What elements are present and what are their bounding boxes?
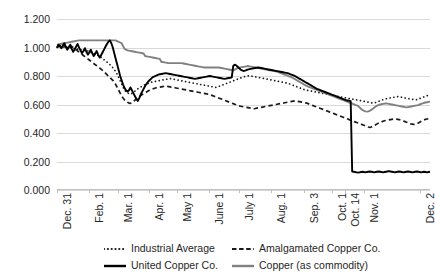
x-axis-tick-label: June 1 <box>213 193 225 225</box>
x-axis-tick-mark <box>209 190 210 193</box>
x-axis-tick-mark <box>57 190 58 193</box>
x-axis-tick-mark <box>304 190 305 193</box>
y-axis-tick-label: 1.000 <box>0 42 50 54</box>
x-axis-tick-label: Dec. 2 <box>424 193 435 223</box>
x-axis-tick-label: Aug. 1 <box>275 193 287 223</box>
x-axis-tick-mark <box>239 190 240 193</box>
y-axis-tick-label: 0.600 <box>0 99 50 111</box>
legend-label: Amalgamated Copper Co. <box>259 243 380 254</box>
x-axis-tick-mark <box>177 190 178 193</box>
y-axis-tick-label: 0.800 <box>0 70 50 82</box>
legend-label: Copper (as commodity) <box>259 260 368 271</box>
x-axis-baseline <box>57 189 430 190</box>
x-axis-tick-label: Oct. 14 <box>349 193 361 227</box>
legend-key-solid-icon <box>232 262 254 270</box>
legend-item[interactable]: United Copper Co. <box>104 260 232 271</box>
x-axis-tick-mark <box>420 190 421 193</box>
legend-item[interactable]: Amalgamated Copper Co. <box>232 243 404 254</box>
x-axis-tick-label: Dec. 31 <box>61 193 73 229</box>
x-axis-tick-mark <box>364 190 365 193</box>
gridline <box>57 190 430 191</box>
legend-key-solid-icon <box>104 262 126 270</box>
x-axis-tick-label: May 1 <box>181 193 193 222</box>
x-axis-tick-label: Nov. 1 <box>368 193 380 223</box>
x-axis-tick-mark <box>89 190 90 193</box>
legend-item[interactable]: Copper (as commodity) <box>232 260 404 271</box>
legend-label: Industrial Average <box>131 243 215 254</box>
x-axis-tick-label: Sep. 3 <box>308 193 320 223</box>
x-axis-tick-label: Feb. 1 <box>93 193 105 223</box>
x-axis-tick-mark <box>149 190 150 193</box>
legend-key-dotted-icon <box>104 245 126 253</box>
legend-item[interactable]: Industrial Average <box>104 243 232 254</box>
series-line <box>57 45 430 128</box>
series-line <box>57 46 430 103</box>
y-axis-tick-label: 1.200 <box>0 13 50 25</box>
x-axis-tick-label: Apr. 1 <box>153 193 165 220</box>
x-axis-tick-mark <box>118 190 119 193</box>
x-axis-tick-mark <box>271 190 272 193</box>
y-axis-tick-label: 0.000 <box>0 184 50 196</box>
y-axis-tick-label: 0.200 <box>0 156 50 168</box>
x-axis-tick-mark <box>332 190 333 193</box>
x-axis-tick-label: July 1 <box>243 193 255 220</box>
series-line <box>57 40 430 172</box>
plot-area <box>57 19 430 190</box>
stock-price-line-chart: 0.0000.2000.4000.6000.8001.0001.200 Dec.… <box>0 0 435 278</box>
series-lines <box>57 19 430 190</box>
x-axis-tick-label: Oct. 1 <box>336 193 348 221</box>
legend-label: United Copper Co. <box>131 260 218 271</box>
y-axis-tick-label: 0.400 <box>0 127 50 139</box>
legend-key-dashed-icon <box>232 245 254 253</box>
x-axis-tick-label: Mar. 1 <box>122 193 134 222</box>
chart-legend: Industrial AverageAmalgamated Copper Co.… <box>104 240 404 274</box>
x-axis-tick-mark <box>345 190 346 193</box>
